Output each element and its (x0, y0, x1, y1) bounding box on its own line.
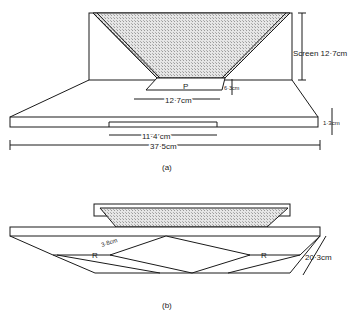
label-r-right: R (261, 251, 267, 260)
screen-surface (93, 13, 290, 78)
label-p: P (183, 82, 188, 91)
label-p-height: 6·3cm (224, 85, 240, 91)
label-total-width: 37·5cm (150, 142, 177, 151)
label-p-width: 12·7cm (165, 96, 192, 105)
base-notch (109, 122, 217, 127)
label-screen: Screen 12·7cm (293, 49, 348, 58)
diagram-canvas: Screen 12·7cm P 6·3cm 12·7cm 1·3cm 11·4 … (0, 0, 359, 317)
figure-b (10, 204, 326, 275)
caption-b: (b) (162, 301, 172, 310)
label-notch-width: 11·4 cm (142, 132, 171, 141)
caption-a: (a) (162, 163, 172, 172)
figure-a (10, 13, 332, 150)
label-gap: 3·8cm (100, 237, 118, 248)
label-r-left: R (92, 251, 98, 260)
label-depth: 20·3cm (305, 253, 332, 262)
label-base-thickness: 1·3cm (323, 120, 340, 126)
